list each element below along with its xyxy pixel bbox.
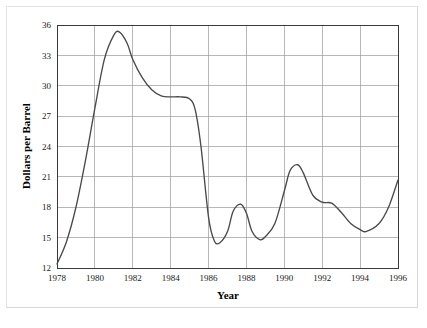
x-tick-label-1994: 1994 [351,273,370,283]
y-tick-label-36: 36 [42,20,52,30]
line-chart: 121518212427303336 197819801982198419861… [0,0,427,328]
chart-page: 121518212427303336 197819801982198419861… [0,0,427,328]
chart-svg: 121518212427303336 197819801982198419861… [0,0,427,328]
y-tick-label-15: 15 [42,233,52,243]
x-tick-label-1992: 1992 [313,273,331,283]
y-tick-label-27: 27 [42,111,52,121]
x-tick-label-1978: 1978 [48,273,67,283]
y-axis-title: Dollars per Barrel [20,103,32,189]
x-axis-tick-labels: 1978198019821984198619881990199219941996 [48,273,408,283]
x-tick-label-1986: 1986 [200,273,219,283]
x-tick-label-1980: 1980 [86,273,105,283]
x-tick-label-1996: 1996 [389,273,408,283]
y-tick-label-24: 24 [42,142,52,152]
y-tick-label-30: 30 [42,81,52,91]
y-axis-tick-labels: 121518212427303336 [42,20,52,273]
x-axis-title: Year [217,289,239,301]
x-tick-label-1988: 1988 [237,273,256,283]
y-tick-label-18: 18 [42,202,52,212]
x-tick-label-1984: 1984 [162,273,181,283]
y-tick-label-33: 33 [42,51,52,61]
x-tick-label-1982: 1982 [124,273,142,283]
x-tick-label-1990: 1990 [275,273,294,283]
y-tick-label-21: 21 [42,172,51,182]
y-tick-label-12: 12 [42,263,51,273]
